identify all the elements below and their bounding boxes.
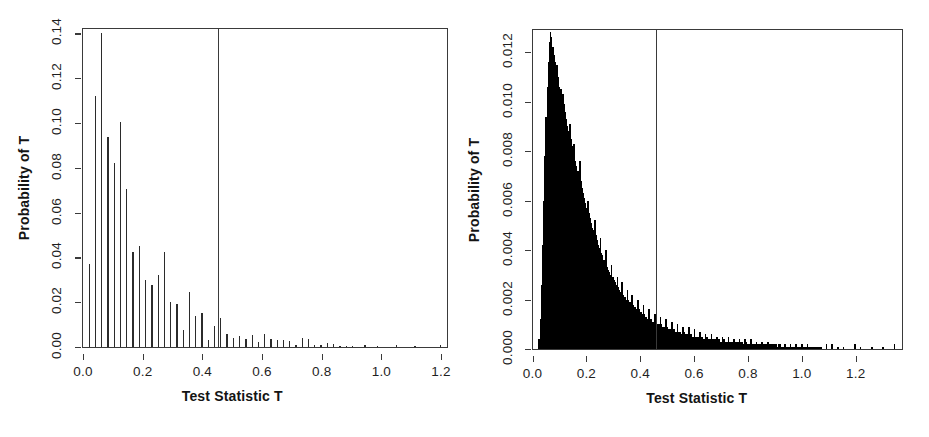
data-bar	[145, 280, 146, 347]
y-tick-label: 0.14	[40, 24, 74, 39]
data-bar	[158, 275, 159, 347]
x-tick	[856, 356, 857, 362]
data-bar	[289, 341, 290, 347]
data-bar	[164, 252, 165, 347]
data-bar	[226, 334, 227, 347]
y-tick	[525, 300, 531, 301]
x-tick	[441, 354, 442, 360]
data-bar	[843, 347, 845, 349]
data-bar	[283, 340, 284, 347]
y-tick	[75, 257, 81, 258]
data-bar	[252, 335, 253, 347]
x-tick	[802, 356, 803, 362]
data-bar	[126, 189, 127, 347]
left-x-axis-title: Test Statistic T	[0, 388, 465, 404]
data-bar	[195, 316, 196, 347]
y-tick	[75, 33, 81, 34]
y-tick	[525, 151, 531, 152]
data-bar	[270, 339, 271, 347]
data-bar	[201, 313, 202, 347]
data-bar	[101, 33, 102, 347]
y-tick-label: 0.12	[40, 69, 74, 84]
data-bar	[277, 340, 278, 347]
data-bar	[151, 285, 152, 347]
y-tick	[75, 78, 81, 79]
y-tick	[75, 302, 81, 303]
data-bar	[414, 346, 415, 347]
y-tick-label: 0.008	[490, 142, 524, 157]
data-bar	[826, 344, 828, 349]
y-tick	[525, 201, 531, 202]
x-tick-label: 1.2	[431, 364, 450, 379]
y-tick	[525, 102, 531, 103]
y-tick-label: 0.004	[490, 241, 524, 256]
data-bar	[189, 292, 190, 347]
data-bar	[333, 344, 334, 347]
data-bar	[183, 330, 184, 347]
right-plot-area	[533, 30, 902, 349]
y-tick-label: 0.002	[490, 291, 524, 306]
right-y-axis-title: Probability of T	[466, 137, 482, 241]
data-bar	[339, 346, 340, 347]
x-tick	[262, 354, 263, 360]
y-tick	[525, 52, 531, 53]
left-panel: 0.00.20.40.60.81.01.20.000.020.040.060.0…	[0, 0, 465, 437]
x-tick	[748, 356, 749, 362]
right-panel: 0.00.20.40.60.81.01.20.0000.0020.0040.00…	[465, 0, 929, 437]
x-tick-label: 0.4	[193, 364, 212, 379]
data-bar	[820, 347, 822, 349]
x-tick-label: 0.6	[684, 366, 703, 381]
data-bar	[220, 318, 221, 347]
x-tick-label: 0.2	[577, 366, 596, 381]
left-plot-area	[83, 29, 447, 347]
data-bar	[854, 344, 856, 349]
y-tick	[75, 213, 81, 214]
x-tick	[586, 356, 587, 362]
x-tick-label: 0.2	[133, 364, 152, 379]
data-bar	[214, 326, 215, 347]
data-bar	[364, 345, 365, 347]
data-bar	[882, 347, 884, 349]
y-tick-label: 0.000	[490, 340, 524, 355]
y-tick	[75, 347, 81, 348]
data-bar	[208, 340, 209, 347]
y-tick	[75, 168, 81, 169]
y-tick-label: 0.04	[40, 248, 74, 263]
y-tick-label: 0.06	[40, 204, 74, 219]
x-tick	[533, 356, 534, 362]
x-tick	[143, 354, 144, 360]
data-bar	[95, 96, 96, 347]
data-bar	[170, 302, 171, 347]
data-bar	[314, 345, 315, 347]
data-bar	[308, 339, 309, 348]
x-tick-label: 0.0	[73, 364, 92, 379]
observed-statistic-line	[656, 29, 657, 350]
data-bar	[132, 252, 133, 347]
data-bar	[233, 338, 234, 347]
x-tick	[694, 356, 695, 362]
observed-statistic-line	[218, 28, 219, 348]
data-bar	[860, 347, 862, 349]
data-bar	[139, 246, 140, 347]
data-bar	[245, 339, 246, 347]
data-bar	[871, 347, 873, 349]
x-tick	[83, 354, 84, 360]
y-tick	[75, 123, 81, 124]
data-bar	[327, 343, 328, 347]
left-y-axis-title: Probability of T	[16, 136, 32, 240]
y-tick-label: 0.012	[490, 43, 524, 58]
data-bar	[440, 345, 441, 347]
x-tick-label: 1.0	[372, 364, 391, 379]
y-tick-label: 0.010	[490, 93, 524, 108]
data-bar	[377, 346, 378, 347]
y-tick	[525, 250, 531, 251]
data-bar	[894, 344, 896, 349]
x-tick-label: 0.8	[312, 364, 331, 379]
x-tick-label: 1.0	[792, 366, 811, 381]
data-bar	[258, 342, 259, 347]
right-x-axis-title: Test Statistic T	[465, 390, 929, 406]
data-bar	[295, 345, 296, 347]
y-tick-label: 0.006	[490, 192, 524, 207]
data-bar	[264, 334, 265, 347]
x-tick	[202, 354, 203, 360]
